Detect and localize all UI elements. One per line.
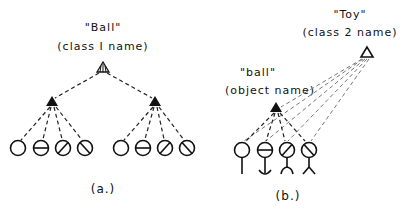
- class1-caption-label: (class I name): [57, 40, 148, 53]
- feature-bar-circle-icon: [34, 141, 49, 156]
- panel-b: "Toy" (class 2 name) "ball" (object name…: [225, 8, 398, 203]
- feature-forward-slash-circle-icon: [56, 141, 71, 156]
- feature-bar-circle-anchor-icon: [258, 143, 273, 175]
- feature-empty-circle-icon: [11, 141, 26, 156]
- panel-a: "Ball" (class I name): [11, 21, 195, 196]
- object-name-label: "ball": [240, 66, 276, 79]
- feature-forward-slash-circle-legs-icon: [280, 143, 295, 175]
- feature-empty-circle-icon: [114, 141, 129, 156]
- feature-back-slash-circle-icon: [78, 141, 93, 156]
- feature-bar-circle-icon: [136, 141, 151, 156]
- feature-forward-slash-circle-icon: [158, 141, 173, 156]
- feature-back-slash-circle-legs-icon: [302, 143, 317, 175]
- object-node-icon: [270, 102, 282, 112]
- diagram-canvas: "Ball" (class I name): [0, 0, 405, 212]
- class1-name-label: "Ball": [85, 21, 122, 34]
- panel-b-caption: (b.): [276, 189, 301, 203]
- class-node-hatched-icon: [97, 62, 109, 72]
- class-node-open-icon: [361, 47, 373, 57]
- class2-caption-label: (class 2 name): [302, 26, 397, 39]
- panel-a-caption: (a.): [91, 182, 116, 196]
- feature-empty-circle-stem-icon: [235, 143, 250, 175]
- class2-name-label: "Toy": [333, 8, 366, 21]
- feature-back-slash-circle-icon: [180, 141, 195, 156]
